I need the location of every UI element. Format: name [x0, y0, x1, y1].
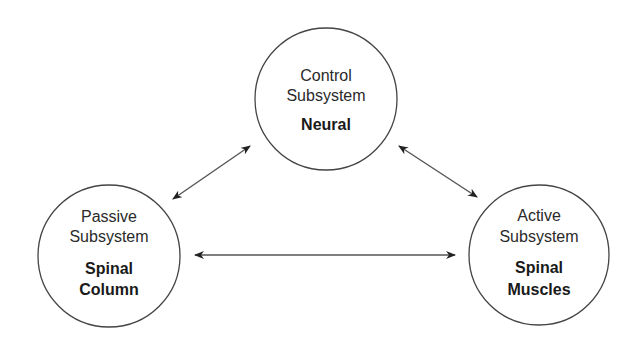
arrow-control-active: [399, 146, 477, 197]
node-title-line1: Control: [300, 67, 352, 84]
node-circle: [469, 185, 609, 325]
node-title-line2: Subsystem: [69, 228, 148, 245]
diagram-canvas: Control Subsystem Neural Passive Subsyst…: [0, 0, 639, 343]
node-active-subsystem: Active Subsystem Spinal Muscles: [469, 185, 609, 325]
node-title-line2: Subsystem: [499, 228, 578, 245]
node-circle: [38, 185, 180, 327]
node-passive-subsystem: Passive Subsystem Spinal Column: [38, 185, 180, 327]
node-title-line2: Subsystem: [286, 87, 365, 104]
arrow-passive-control: [173, 146, 250, 199]
node-title-line1: Passive: [81, 208, 137, 225]
node-component-line2: Muscles: [507, 281, 570, 298]
node-component-line1: Neural: [301, 116, 351, 133]
node-control-subsystem: Control Subsystem Neural: [255, 28, 397, 170]
node-component-line1: Spinal: [85, 260, 133, 277]
node-component-line2: Column: [79, 281, 139, 298]
node-component-line1: Spinal: [515, 259, 563, 276]
node-title-line1: Active: [517, 207, 561, 224]
